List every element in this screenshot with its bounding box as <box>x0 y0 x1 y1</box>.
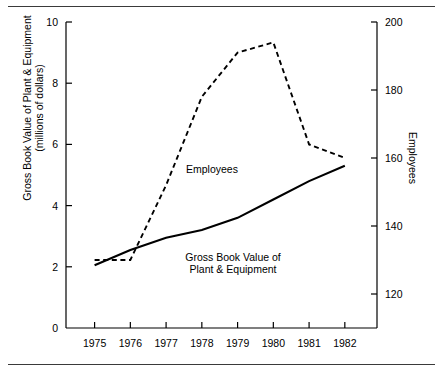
x-tick-label-1977: 1977 <box>146 338 186 349</box>
x-axis-ticks <box>95 322 345 328</box>
x-tick-label-1980: 1980 <box>253 338 293 349</box>
right-tick-label-180: 180 <box>385 85 419 96</box>
series-annotation-employees: Employees <box>186 163 238 175</box>
right-tick-label-160: 160 <box>385 153 419 164</box>
x-tick-label-1976: 1976 <box>110 338 150 349</box>
left-tick-label-4: 4 <box>24 201 58 212</box>
left-axis-title: Gross Book Value of Plant & Equipment (m… <box>21 8 45 208</box>
left-tick-label-0: 0 <box>24 323 58 334</box>
x-tick-label-1979: 1979 <box>218 338 258 349</box>
series-line-employees <box>95 42 345 260</box>
axes-lines <box>66 22 377 328</box>
right-axis-ticks <box>371 22 377 294</box>
right-tick-label-120: 120 <box>385 289 419 300</box>
plot-area <box>0 0 443 372</box>
x-tick-label-1978: 1978 <box>182 338 222 349</box>
left-tick-label-8: 8 <box>24 78 58 89</box>
left-tick-label-10: 10 <box>24 17 58 28</box>
right-tick-label-140: 140 <box>385 221 419 232</box>
left-axis-ticks <box>66 22 72 267</box>
left-tick-label-2: 2 <box>24 262 58 273</box>
x-tick-label-1981: 1981 <box>289 338 329 349</box>
series-annotation-gross-book-value: Gross Book Value of Plant & Equipment <box>168 251 298 275</box>
left-tick-label-6: 6 <box>24 139 58 150</box>
right-tick-label-200: 200 <box>385 17 419 28</box>
x-tick-label-1982: 1982 <box>325 338 365 349</box>
chart-figure: Gross Book Value of Plant & Equipment (m… <box>0 0 443 372</box>
x-tick-label-1975: 1975 <box>75 338 115 349</box>
